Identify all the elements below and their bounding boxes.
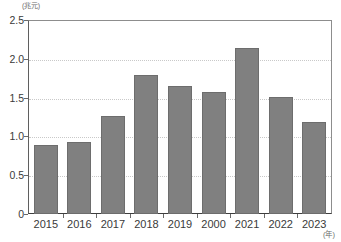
x-axis-tick-label: 2018 [134, 218, 158, 230]
y-axis-tick-label: 1.0 [0, 130, 24, 142]
bar [168, 86, 192, 214]
y-axis-tick [24, 20, 28, 21]
y-axis-tick [24, 175, 28, 176]
x-axis-tick-label: 2017 [101, 218, 125, 230]
y-axis-tick [24, 136, 28, 137]
x-axis-tick-label: 2015 [34, 218, 58, 230]
y-axis-tick [24, 98, 28, 99]
x-axis-tick [230, 214, 231, 218]
x-axis-tick-label: 2000 [201, 218, 225, 230]
bar [235, 48, 259, 214]
x-axis-tick [297, 214, 298, 218]
y-axis-tick-label: 0 [0, 208, 24, 220]
bar-series [29, 21, 331, 214]
x-axis-tick-label: 2022 [268, 218, 292, 230]
bar [134, 75, 158, 214]
bar [302, 122, 326, 214]
y-axis-tick-label: 0.5 [0, 169, 24, 181]
x-axis-tick [264, 214, 265, 218]
bar [34, 145, 58, 214]
y-axis-tick-label: 1.5 [0, 92, 24, 104]
bar [67, 142, 91, 214]
y-axis-tick [24, 59, 28, 60]
y-axis-tick-label: 2.0 [0, 53, 24, 65]
bar [269, 97, 293, 214]
y-axis-unit-label: (兆元) [22, 0, 40, 10]
bar-chart: (兆元) 00.51.01.52.02.5 201520162017201820… [0, 0, 341, 242]
x-axis-tick-label: 2021 [235, 218, 259, 230]
x-axis-tick-label: 2016 [67, 218, 91, 230]
x-axis-unit-label: (年) [323, 228, 335, 239]
x-axis-tick-label: 2019 [168, 218, 192, 230]
x-axis-tick [163, 214, 164, 218]
y-axis-tick-label: 2.5 [0, 14, 24, 26]
bar [101, 116, 125, 214]
y-axis-tick [24, 214, 28, 215]
x-axis-tick [130, 214, 131, 218]
x-axis-tick [197, 214, 198, 218]
bar [202, 92, 226, 214]
y-axis-tick-labels: 00.51.01.52.02.5 [0, 0, 24, 242]
x-axis-tick [63, 214, 64, 218]
x-axis-tick [96, 214, 97, 218]
